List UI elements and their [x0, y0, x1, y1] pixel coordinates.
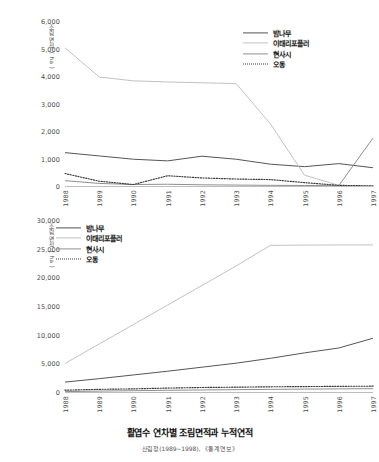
figure-title: 활엽수 연차별 조림면적과 누적연적: [0, 426, 379, 439]
legend-label: 이태리포플러: [86, 233, 121, 243]
x-tick-label: 1992: [198, 190, 205, 207]
series-lines-annual: [65, 22, 373, 187]
y-tick-label: 10,000: [37, 332, 60, 340]
legend-label: 현사시: [273, 49, 291, 59]
legend-label: 밤나무: [273, 28, 291, 38]
y-tick-label: 3,000: [41, 101, 60, 109]
legend-label: 오동: [273, 59, 285, 69]
x-tick-label: 1989: [96, 396, 103, 413]
x-tick-label: 1995: [301, 190, 308, 207]
legend-annual: 밤나무이태리포플러현사시오동: [243, 28, 308, 69]
series-line: [65, 48, 373, 186]
y-tick-label: 1,000: [41, 156, 60, 164]
plot-area-annual: 01,0002,0003,0004,0005,0006,000 19881989…: [65, 22, 373, 187]
figure-root: 조림면적 ( ha ) 01,0002,0003,0004,0005,0006,…: [0, 0, 379, 462]
x-axis-ticks-cumulative: 1988198919901991199219931994199519961997: [65, 393, 373, 427]
x-tick-label: 1988: [62, 396, 69, 413]
x-tick-label: 1989: [96, 190, 103, 207]
x-tick-label: 1995: [301, 396, 308, 413]
y-tick-label: 2,000: [41, 128, 60, 136]
y-axis-ticks-annual: 01,0002,0003,0004,0005,0006,000: [5, 22, 65, 187]
x-tick-label: 1996: [335, 190, 342, 207]
x-tick-label: 1996: [335, 396, 342, 413]
legend-item[interactable]: 현사시: [56, 244, 121, 253]
chart-annual-afforestation: 조림면적 ( ha ) 01,0002,0003,0004,0005,0006,…: [0, 0, 379, 218]
y-tick-label: 4,000: [41, 73, 60, 81]
y-tick-label: 5,000: [41, 46, 60, 54]
x-tick-label: 1997: [370, 190, 377, 207]
x-tick-label: 1994: [267, 190, 274, 207]
x-tick-label: 1988: [62, 190, 69, 207]
series-line: [65, 153, 373, 168]
legend-label: 오동: [86, 254, 98, 264]
legend-cumulative: 밤나무이태리포플러현사시오동: [56, 223, 121, 264]
x-tick-label: 1993: [233, 190, 240, 207]
legend-item[interactable]: 현사시: [243, 49, 308, 58]
x-tick-label: 1991: [164, 190, 171, 207]
figure-source: 산림청(1989~1998), 《통계연보》: [0, 444, 379, 453]
x-tick-label: 1997: [370, 396, 377, 413]
legend-label: 밤나무: [86, 223, 104, 233]
x-tick-label: 1994: [267, 396, 274, 413]
y-tick-label: 20,000: [37, 274, 60, 282]
chart-cumulative-afforestation: 조림면적 ( ha ) 05,00010,00015,00020,00025,0…: [0, 215, 379, 415]
x-tick-label: 1990: [130, 190, 137, 207]
legend-label: 현사시: [86, 244, 104, 254]
legend-item[interactable]: 이태리포플러: [243, 39, 308, 48]
x-tick-label: 1991: [164, 396, 171, 413]
x-tick-label: 1992: [198, 396, 205, 413]
y-tick-label: 15,000: [37, 303, 60, 311]
y-tick-label: 0: [56, 183, 60, 191]
y-tick-label: 0: [56, 389, 60, 397]
legend-item[interactable]: 오동: [243, 60, 308, 69]
legend-item[interactable]: 오동: [56, 255, 121, 264]
y-tick-label: 5,000: [41, 360, 60, 368]
x-tick-label: 1993: [233, 396, 240, 413]
series-line: [65, 338, 373, 382]
legend-item[interactable]: 이태리포플러: [56, 234, 121, 243]
legend-label: 이태리포플러: [273, 38, 308, 48]
x-tick-label: 1990: [130, 396, 137, 413]
legend-item[interactable]: 밤나무: [243, 28, 308, 37]
legend-item[interactable]: 밤나무: [56, 223, 121, 232]
y-tick-label: 6,000: [41, 18, 60, 26]
plot-canvas-annual: [65, 22, 373, 187]
